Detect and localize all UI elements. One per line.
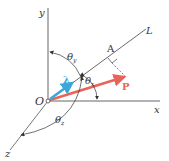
z-axis <box>10 101 48 150</box>
unit-vector-lambda-label: λ <box>63 74 70 85</box>
theta-x-label: θx <box>85 75 95 87</box>
line-l-label: L <box>145 25 153 36</box>
theta-y-label: θy <box>67 51 77 64</box>
origin-label: O <box>35 95 44 108</box>
point-a-label: A <box>106 43 115 54</box>
right-angle-marker <box>108 58 117 63</box>
y-axis-label: y <box>38 7 45 18</box>
projection-dashed-line <box>112 63 126 77</box>
x-axis-label: x <box>154 104 160 115</box>
origin-point <box>46 99 50 103</box>
z-axis-label: z <box>4 148 11 159</box>
theta-z-arc <box>21 78 82 135</box>
vector-diagram: y x z O L A P λ θy θx θz <box>0 0 169 161</box>
vector-p-label: P <box>122 81 130 92</box>
